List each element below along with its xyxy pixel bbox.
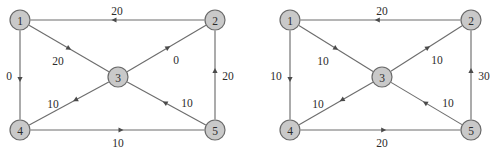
edge-5-2-weight-label: 20 (222, 70, 234, 82)
graph-node-3[interactable]: 3 (108, 67, 128, 87)
edge-4-5-weight-label: 20 (376, 137, 388, 149)
edge-3-4-weight-label: 10 (312, 98, 324, 110)
edge-5-3-weight-label: 10 (442, 97, 454, 109)
edge-2-1: 20 (301, 5, 461, 23)
graph-node-5[interactable]: 5 (205, 120, 225, 140)
edge-1-3-weight-label: 10 (317, 55, 329, 67)
edge-3-4-line (29, 82, 109, 125)
edge-5-3: 10 (391, 82, 462, 124)
graph-node-3-label: 3 (115, 72, 121, 84)
edge-5-2-arrowhead-icon (212, 68, 217, 73)
edge-5-2-weight-label: 30 (478, 70, 490, 82)
edge-1-4-arrowhead-icon (17, 77, 22, 82)
graph-node-2-label: 2 (212, 15, 218, 27)
edge-1-4-weight-label: 10 (270, 70, 282, 82)
edge-2-1-arrowhead-icon (375, 17, 380, 22)
graph-node-2-label: 2 (468, 15, 474, 27)
edge-1-3: 20 (29, 25, 109, 71)
edge-5-3: 10 (127, 82, 206, 125)
edge-1-4: 0 (6, 31, 22, 120)
edge-4-5-arrowhead-icon (381, 127, 386, 132)
edge-1-4-arrowhead-icon (287, 77, 292, 82)
graph-node-1[interactable]: 1 (280, 10, 300, 30)
graph-node-2[interactable]: 2 (205, 10, 225, 30)
graph-canvas-right: 201030201010101012345 (245, 0, 490, 161)
edge-3-4: 10 (29, 82, 109, 125)
edge-4-5-arrowhead-icon (118, 127, 123, 132)
edge-3-2: 10 (391, 26, 462, 72)
edge-1-3-weight-label: 20 (52, 55, 64, 67)
edge-2-1: 20 (31, 5, 205, 23)
graph-node-4-label: 4 (287, 125, 293, 137)
figure-root: 2002010200101012345 20103020101010101234… (0, 0, 490, 161)
edge-2-1-weight-label: 20 (111, 5, 123, 17)
edge-3-4-line (299, 82, 373, 125)
edge-1-4: 10 (270, 31, 292, 120)
graph-node-3[interactable]: 3 (372, 67, 392, 87)
edge-3-2-weight-label: 0 (173, 54, 179, 66)
edge-4-5: 20 (301, 127, 461, 149)
edge-5-2: 20 (212, 31, 234, 120)
edge-2-1-arrowhead-icon (112, 17, 117, 22)
graph-node-2[interactable]: 2 (461, 10, 481, 30)
graph-node-4[interactable]: 4 (10, 120, 30, 140)
edge-2-1-weight-label: 20 (376, 5, 388, 17)
graph-node-4-label: 4 (17, 125, 23, 137)
edge-3-4-weight-label: 10 (47, 98, 59, 110)
edge-1-4-weight-label: 0 (6, 70, 12, 82)
graph-node-5-label: 5 (212, 125, 218, 137)
graph-node-1-label: 1 (287, 15, 293, 27)
graph-panel-right: 201030201010101012345 (245, 0, 490, 161)
graph-panel-left: 2002010200101012345 (0, 0, 245, 161)
edge-5-2: 30 (468, 31, 490, 120)
edge-5-2-arrowhead-icon (468, 68, 473, 73)
graph-node-1[interactable]: 1 (10, 10, 30, 30)
graph-node-5-label: 5 (468, 125, 474, 137)
edge-3-4: 10 (299, 82, 373, 125)
graph-node-3-label: 3 (379, 72, 385, 84)
graph-node-5[interactable]: 5 (461, 120, 481, 140)
graph-canvas-left: 2002010200101012345 (0, 0, 245, 161)
graph-node-4[interactable]: 4 (280, 120, 300, 140)
edge-1-3: 10 (299, 26, 373, 72)
edge-3-2-weight-label: 10 (431, 54, 443, 66)
graph-node-1-label: 1 (17, 15, 23, 27)
edge-4-5: 10 (31, 127, 205, 149)
edge-3-2: 0 (127, 25, 206, 71)
edge-5-3-weight-label: 10 (181, 97, 193, 109)
edge-4-5-weight-label: 10 (112, 137, 124, 149)
